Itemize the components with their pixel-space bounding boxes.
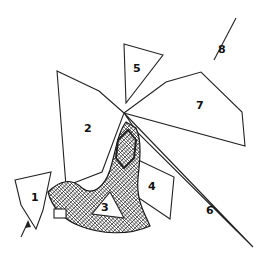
label-1: 1 <box>31 191 39 204</box>
label-7: 7 <box>196 99 204 112</box>
label-6: 6 <box>206 204 214 217</box>
label-2: 2 <box>84 122 92 135</box>
hatch-line <box>0 120 6 240</box>
hatch-line <box>245 120 273 240</box>
hatch-line <box>0 120 5 240</box>
hatch-line <box>263 120 273 240</box>
hatch-line <box>0 120 13 240</box>
hatch-line <box>267 120 272 240</box>
hatch-line <box>0 120 10 240</box>
label-4: 4 <box>148 180 156 193</box>
hatch-line <box>254 120 273 240</box>
label-8: 8 <box>218 43 226 56</box>
hatch-line <box>0 120 14 240</box>
hatch-line <box>0 120 3 240</box>
hatch-line <box>272 120 273 240</box>
hatch-line <box>249 120 272 240</box>
tube-end-block <box>54 209 66 218</box>
hatch-line <box>0 120 16 240</box>
label-5: 5 <box>133 62 141 75</box>
hatch-line <box>0 120 9 240</box>
label-3: 3 <box>101 201 109 214</box>
diagram-figure: 1 2 3 4 5 6 7 8 <box>0 0 272 258</box>
pointer-arrow <box>21 220 31 237</box>
hatch-line <box>258 120 272 240</box>
